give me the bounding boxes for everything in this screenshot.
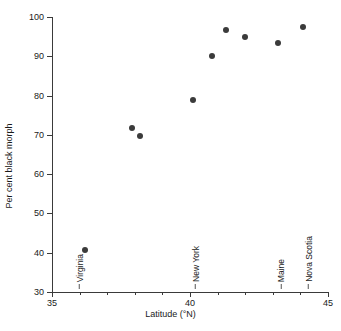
x-axis-tick-minor	[135, 292, 136, 295]
data-point	[275, 40, 281, 46]
y-axis-tick	[47, 174, 52, 175]
y-axis-tick	[47, 135, 52, 136]
y-axis-tick-label: 90	[34, 52, 44, 61]
region-annotation: Nova Scotia	[304, 219, 313, 289]
y-axis-tick-label: 30	[34, 288, 44, 297]
y-axis-tick	[47, 17, 52, 18]
region-annotation-label: Maine	[277, 259, 286, 282]
region-annotation-stem	[79, 284, 80, 289]
y-axis-tick	[47, 213, 52, 214]
x-axis-title: Latitude (°N)	[0, 309, 341, 319]
data-point	[190, 97, 196, 103]
data-point	[82, 247, 88, 253]
scatter-chart-figure: Per cent black morph 30405060708090100 3…	[0, 0, 341, 331]
x-axis-tick-minor	[107, 292, 108, 295]
region-annotation-stem	[308, 284, 309, 289]
x-axis-tick-label: 45	[323, 299, 333, 308]
y-axis-tick-label: 60	[34, 170, 44, 179]
x-axis-tick-minor	[245, 292, 246, 295]
data-point	[242, 34, 248, 40]
region-annotation-stem	[195, 284, 196, 289]
x-axis-tick-minor	[218, 292, 219, 295]
x-axis-tick-minor	[80, 292, 81, 295]
region-annotation: Maine	[277, 219, 286, 289]
data-point	[300, 24, 306, 30]
y-axis-tick	[47, 56, 52, 57]
region-annotation: New York	[191, 219, 200, 289]
x-axis-tick-major	[52, 292, 53, 297]
region-annotation: Virginia	[75, 219, 84, 289]
region-annotation-label: New York	[191, 246, 200, 282]
y-axis-tick-label: 100	[29, 13, 44, 22]
y-axis-tick-label: 40	[34, 248, 44, 257]
x-axis-tick-minor	[273, 292, 274, 295]
x-axis-tick-label: 35	[47, 299, 57, 308]
region-annotation-stem	[281, 284, 282, 289]
plot-area: 30405060708090100 354045 VirginiaNew Yor…	[52, 17, 328, 292]
data-point	[129, 125, 135, 131]
x-axis-tick-minor	[300, 292, 301, 295]
y-axis-tick-label: 70	[34, 130, 44, 139]
y-axis-tick	[47, 253, 52, 254]
y-axis-tick-label: 80	[34, 91, 44, 100]
data-point	[137, 133, 143, 139]
data-point	[223, 27, 229, 33]
y-axis-line	[52, 17, 53, 293]
y-axis-title: Per cent black morph	[2, 0, 16, 331]
x-axis-title-text: Latitude (°N)	[145, 309, 196, 319]
x-axis-tick-label: 40	[185, 299, 195, 308]
region-annotation-label: Virginia	[75, 254, 84, 282]
y-axis-tick	[47, 96, 52, 97]
region-annotation-label: Nova Scotia	[304, 236, 313, 282]
x-axis-tick-major	[190, 292, 191, 297]
y-axis-tick-label: 50	[34, 209, 44, 218]
x-axis-tick-major	[328, 292, 329, 297]
data-point	[209, 53, 215, 59]
y-axis-title-text: Per cent black morph	[4, 123, 14, 208]
x-axis-tick-minor	[162, 292, 163, 295]
